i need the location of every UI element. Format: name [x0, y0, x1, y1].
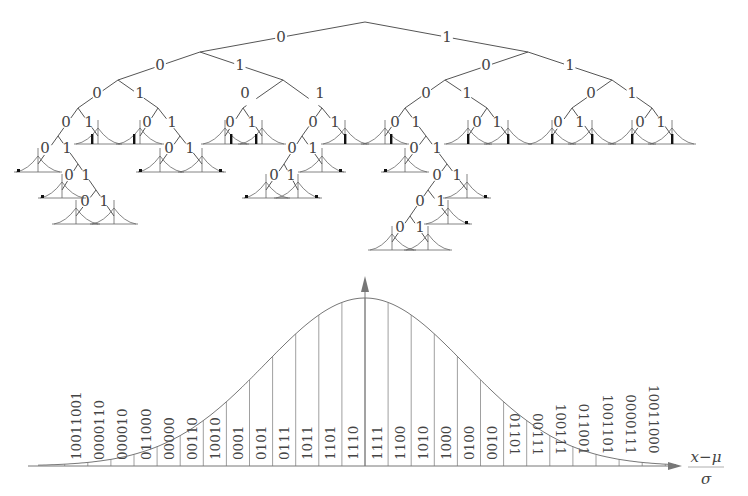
tree-edge — [152, 108, 158, 118]
tree-edge — [575, 68, 612, 80]
tree-edge — [200, 52, 234, 64]
edge-label-bit: 0 — [276, 28, 286, 46]
bin-code-label: 1000 — [438, 426, 454, 460]
leaf-distribution-icon — [608, 120, 656, 144]
edge-label-bit: 0 — [164, 139, 174, 157]
bin-code-label: 011001 — [576, 404, 592, 456]
edge-label-bit: 0 — [635, 113, 645, 131]
tree-edge — [158, 108, 166, 119]
tree-edge — [645, 108, 652, 118]
diagram-canvas: 0101010101010101010101010101010101010101… — [0, 0, 748, 496]
edge-label-bit: 1 — [492, 113, 502, 131]
tree-edge — [243, 106, 246, 108]
tree-edge — [166, 52, 200, 64]
leaf-distribution-icon — [136, 148, 184, 172]
bin-code-label: 00111 — [530, 413, 546, 456]
edge-label-bit: 0 — [287, 139, 297, 157]
edge-label-bit: 1 — [330, 113, 340, 131]
bin-code-label: 100111 — [553, 404, 569, 456]
edge-label-bit: 1 — [656, 113, 666, 131]
bin-code-label: 10011001 — [68, 391, 84, 460]
edge-label-bit: 0 — [553, 113, 563, 131]
normal-distribution-plot: 1001100100001100000100110000000000110100… — [28, 276, 724, 488]
leaf-distribution-icon — [14, 148, 62, 172]
x-axis-label-numerator: x−μ — [691, 448, 722, 466]
edge-label-bit: 0 — [395, 218, 405, 236]
edge-label-bit: 0 — [155, 56, 165, 74]
tree-edge — [297, 136, 302, 144]
bin-code-label: 0010 — [484, 426, 500, 460]
tree-edge — [51, 136, 58, 145]
diagram-svg: 0101010101010101010101010101010101010101… — [0, 0, 748, 496]
tree-edge — [428, 190, 434, 198]
tree-edge — [103, 80, 118, 91]
tree-edge — [420, 136, 426, 145]
leaf-distribution-icon — [242, 174, 290, 198]
leaf-distribution-icon — [116, 120, 164, 144]
bin-code-label: 1111 — [369, 426, 385, 460]
leaf-distribution-icon — [404, 226, 452, 250]
edge-label-bit: 1 — [247, 113, 257, 131]
edge-label-bit: 1 — [452, 166, 462, 184]
bin-code-label: 01101 — [507, 413, 523, 456]
edge-label-bit: 0 — [64, 166, 74, 184]
x-axis-label-denominator: σ — [701, 470, 712, 488]
bin-code-label: 10010 — [207, 417, 223, 460]
edge-label-bit: 1 — [415, 218, 425, 236]
leaf-distribution-icon — [443, 174, 491, 198]
tree-edge — [279, 164, 284, 171]
tree-edge — [442, 164, 447, 171]
edge-label-bit: 1 — [575, 113, 585, 131]
edge-label-bit: 1 — [62, 139, 72, 157]
bin-code-label: 0000111 — [623, 394, 639, 454]
bin-code-label: 00000 — [161, 417, 177, 460]
edge-label-bit: 1 — [286, 166, 296, 184]
bin-code-label: 000010 — [114, 408, 130, 460]
edge-label-bit: 1 — [308, 139, 318, 157]
leaf-distribution-icon — [201, 120, 249, 144]
bin-code-label: 011000 — [138, 408, 154, 460]
tree-edge — [405, 97, 421, 108]
tree-edge — [445, 80, 461, 91]
leaf-distribution-icon — [528, 120, 576, 144]
tree-edge — [572, 98, 587, 108]
bin-code-label: 0111 — [276, 426, 292, 460]
edge-label-bit: 0 — [421, 84, 431, 102]
tree-edge — [492, 52, 528, 64]
leaf-distribution-icon — [298, 148, 346, 172]
tree-edge — [471, 97, 487, 108]
tree-edge — [431, 80, 445, 90]
edge-label-bit: 1 — [99, 192, 109, 210]
tree-edge — [118, 80, 134, 91]
edge-label-bit: 0 — [61, 113, 71, 131]
leaf-distribution-icon — [381, 148, 429, 172]
edge-label-bit: 1 — [315, 84, 325, 102]
tree-edge — [71, 108, 78, 118]
leaf-distribution-icon — [424, 200, 472, 224]
edge-label-bit: 0 — [40, 139, 50, 157]
leaf-distribution-icon — [484, 120, 532, 144]
edge-label-bit: 0 — [390, 113, 400, 131]
tree-edge — [74, 164, 78, 171]
edge-label-bit: 0 — [586, 84, 596, 102]
edge-label-bit: 0 — [92, 84, 102, 102]
code-tree: 0101010101010101010101010101010101010101… — [14, 22, 696, 250]
tree-edge — [318, 105, 322, 108]
leaf-distribution-icon — [444, 120, 492, 144]
tree-edge — [564, 108, 572, 119]
edge-label-bit: 1 — [436, 192, 446, 210]
edge-label-bit: 0 — [142, 113, 152, 131]
tree-edge — [501, 127, 508, 136]
tree-edge — [585, 126, 592, 136]
y-axis-arrow-icon — [361, 276, 369, 292]
edge-label-bit: 1 — [442, 28, 452, 46]
bin-code-label: 10011000 — [646, 385, 662, 454]
tree-edge — [302, 136, 308, 144]
edge-label-bit: 1 — [411, 113, 421, 131]
tree-edge — [322, 108, 330, 118]
tree-edge — [597, 80, 612, 91]
edge-label-bit: 0 — [432, 166, 442, 184]
bin-code-label: 1101 — [322, 426, 338, 460]
tree-edge — [118, 68, 155, 80]
bin-code-label: 0000110 — [91, 400, 107, 460]
